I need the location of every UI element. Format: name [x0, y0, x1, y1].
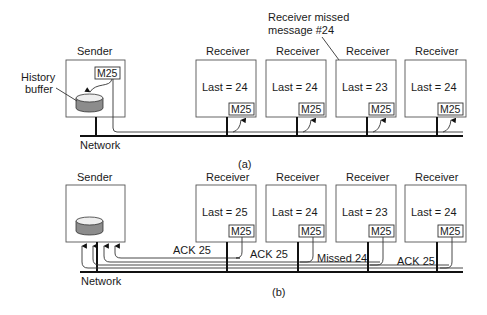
annotation-line-2: message #24 [268, 24, 334, 36]
svg-text:Last = 24: Last = 24 [202, 81, 248, 93]
history-buffer-icon [76, 217, 103, 235]
receiver-b-1: Receiver Last = 25 M25 ACK 25 [173, 171, 256, 272]
network-label-b: Network [81, 275, 122, 287]
svg-text:Last = 24: Last = 24 [272, 206, 318, 218]
svg-text:Receiver: Receiver [206, 45, 250, 57]
svg-text:Receiver: Receiver [206, 171, 250, 183]
svg-text:Receiver: Receiver [276, 45, 320, 57]
panel-a: Sender M25 History buffer Network Receiv… [21, 11, 466, 170]
svg-text:Missed 24: Missed 24 [317, 252, 367, 264]
receiver-b-4: Receiver Last = 24 M25 ACK 25 [397, 171, 466, 272]
history-label-1: History [21, 71, 56, 83]
receiver-a-2: Receiver Last = 24 M25 [266, 45, 326, 136]
svg-text:Last = 25: Last = 25 [202, 206, 248, 218]
sender-title: Sender [77, 45, 113, 57]
svg-text:M25: M25 [301, 103, 322, 115]
history-buffer-icon [76, 94, 103, 112]
receiver-a-1: Receiver Last = 24 M25 [196, 45, 256, 136]
network-label-a: Network [80, 139, 121, 151]
svg-text:Last = 23: Last = 23 [342, 81, 388, 93]
panel-b: Sender Network Receiver Last = 25 M25 AC… [66, 171, 466, 298]
svg-text:M25: M25 [371, 103, 392, 115]
receiver-a-3: Receiver Last = 23 M25 [336, 45, 396, 136]
svg-text:Receiver: Receiver [346, 45, 390, 57]
caption-a: (a) [238, 158, 251, 170]
reliable-multicast-diagram: Sender M25 History buffer Network Receiv… [0, 0, 487, 315]
receiver-b-2: Receiver Last = 24 M25 ACK 25 [250, 171, 326, 272]
svg-text:M25: M25 [371, 225, 392, 237]
svg-text:M25: M25 [231, 103, 252, 115]
svg-text:Last = 24: Last = 24 [272, 81, 318, 93]
svg-text:ACK 25: ACK 25 [397, 255, 435, 267]
receiver-a-4: Receiver Last = 24 M25 [405, 45, 466, 136]
svg-text:M25: M25 [440, 103, 461, 115]
svg-text:Receiver: Receiver [415, 45, 459, 57]
svg-text:ACK 25: ACK 25 [250, 248, 288, 260]
svg-text:Receiver: Receiver [346, 171, 390, 183]
svg-text:M25: M25 [231, 225, 252, 237]
receiver-b-3: Receiver Last = 23 M25 Missed 24 [317, 171, 396, 272]
svg-text:Receiver: Receiver [276, 171, 320, 183]
annotation-line-1: Receiver missed [268, 11, 349, 23]
svg-text:Last = 24: Last = 24 [411, 206, 457, 218]
caption-b: (b) [272, 286, 285, 298]
history-label-2: buffer [25, 83, 53, 95]
svg-text:Receiver: Receiver [415, 171, 459, 183]
svg-text:Sender: Sender [77, 171, 113, 183]
svg-text:ACK 25: ACK 25 [173, 244, 211, 256]
svg-text:Last = 24: Last = 24 [411, 81, 457, 93]
svg-text:M25: M25 [440, 225, 461, 237]
sender-node-a: Sender M25 History buffer [21, 45, 125, 135]
svg-text:M25: M25 [301, 225, 322, 237]
sender-message: M25 [97, 67, 118, 79]
svg-text:Last = 23: Last = 23 [342, 206, 388, 218]
